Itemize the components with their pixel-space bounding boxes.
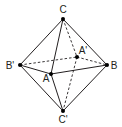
vertex-C <box>61 17 65 21</box>
vertex-label-Cp: C' <box>58 114 67 125</box>
hidden-edges <box>20 19 107 111</box>
octahedron-diagram: CB'BAA'C' <box>0 0 122 127</box>
edge-A-B <box>51 65 107 74</box>
vertex-A <box>49 72 53 76</box>
edge-hidden-C-Ap <box>63 19 77 57</box>
vertex-label-A: A <box>43 73 50 84</box>
edge-C-A <box>51 19 63 74</box>
edge-C-Bp <box>20 19 63 65</box>
edge-B-Cp <box>63 65 107 111</box>
vertex-label-C: C <box>59 4 66 15</box>
vertex-label-Bp: B' <box>6 60 15 71</box>
vertex-Cp <box>61 109 65 113</box>
vertex-B <box>105 63 109 67</box>
visible-edges <box>20 19 107 111</box>
edge-hidden-Ap-Cp <box>63 57 77 111</box>
edge-hidden-Bp-Ap <box>20 57 77 65</box>
vertex-Bp <box>18 63 22 67</box>
edge-A-Cp <box>51 74 63 111</box>
vertex-label-Ap: A' <box>79 45 88 56</box>
edge-Bp-Cp <box>20 65 63 111</box>
vertex-label-B: B <box>111 60 118 71</box>
vertex-points <box>18 17 109 113</box>
